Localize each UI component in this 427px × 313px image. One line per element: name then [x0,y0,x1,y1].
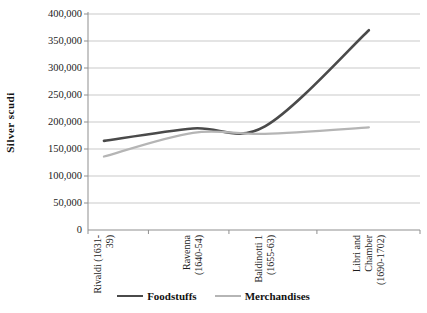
x-axis-label: Ravenna(1640-54) [181,235,205,295]
y-tick-label: 300,000 [36,62,82,74]
legend-item-foodstuffs: Foodstuffs [117,290,197,302]
legend: Foodstuffs Merchandises [0,288,427,304]
y-axis-title: Silver scudi [4,63,19,183]
y-tick-label: 350,000 [36,35,82,47]
y-tick-label: 400,000 [36,8,82,20]
series-line-merchandises [104,127,369,156]
x-axis-label: Baldinotti 1(1655-63) [253,235,277,295]
x-axis-label: Libri andChamber(1690-1702) [351,235,387,295]
series-line-foodstuffs [104,30,369,141]
y-tick-label: 150,000 [36,143,82,155]
y-tick-label: 100,000 [36,170,82,182]
y-tick-label: 50,000 [36,197,82,209]
legend-label-merchandises: Merchandises [245,290,310,302]
legend-label-foodstuffs: Foodstuffs [147,290,197,302]
legend-swatch-merchandises [215,295,241,297]
y-tick-label: 250,000 [36,89,82,101]
chart-figure: Silver scudi 400,000350,000300,000250,00… [0,0,427,313]
y-tick-label: 200,000 [36,116,82,128]
legend-swatch-foodstuffs [117,295,143,297]
x-axis-label: Rivaldi (1631-39) [92,235,116,295]
y-tick-label: 0 [36,224,82,236]
legend-item-merchandises: Merchandises [215,290,310,302]
